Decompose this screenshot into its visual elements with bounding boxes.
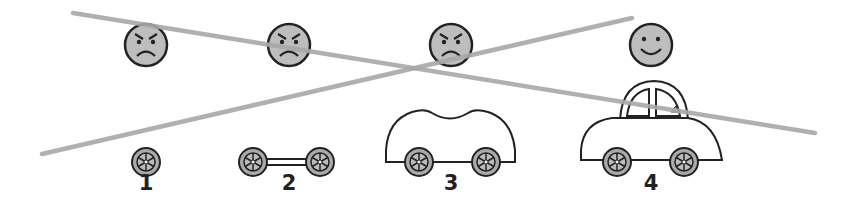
wheel-icon: [670, 148, 698, 176]
wheel-icon: [472, 148, 500, 176]
wheel-icon: [405, 148, 433, 176]
stage-label-1: 1: [131, 171, 161, 195]
stage-label-4: 4: [636, 171, 666, 195]
happy-face-icon-4: [630, 24, 672, 66]
stage-label-3: 3: [436, 171, 466, 195]
wheel-icon: [306, 148, 334, 176]
angry-face-icon-1: [125, 24, 167, 66]
wheel-icon: [603, 148, 631, 176]
car-icon: [581, 81, 722, 160]
wheel-icon: [239, 148, 267, 176]
stage-label-2: 2: [274, 171, 304, 195]
diagram-canvas: [0, 0, 842, 204]
